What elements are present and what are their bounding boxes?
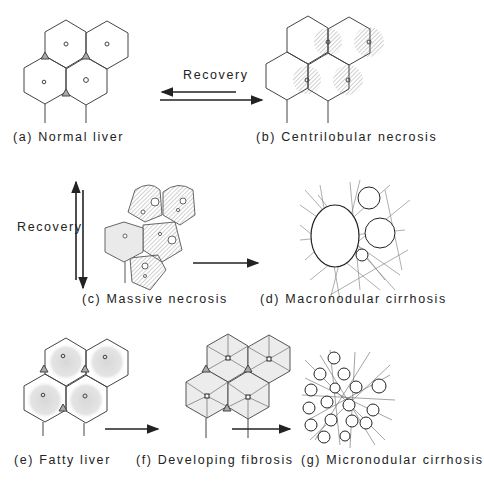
caption-d: (d) Macronodular cirrhosis <box>260 292 447 306</box>
caption-c: (c) Massive necrosis <box>82 292 228 306</box>
caption-b: (b) Centrilobular necrosis <box>256 130 437 144</box>
panel-c-massive-necrosis <box>105 185 195 290</box>
caption-e: (e) Fatty liver <box>14 453 111 467</box>
panel-d-macronodular-cirrhosis <box>300 180 410 300</box>
recovery-arrows-horizontal <box>160 92 262 100</box>
caption-a: (a) Normal liver <box>13 130 124 144</box>
recovery-arrows-vertical <box>76 182 83 288</box>
caption-f: (f) Developing fibrosis <box>136 453 294 467</box>
panel-b-centrilobular-necrosis <box>266 16 384 123</box>
recovery-label-top: Recovery <box>183 68 249 82</box>
recovery-label-side: Recovery <box>17 220 83 234</box>
panel-f-developing-fibrosis <box>186 334 290 438</box>
panel-a-normal-liver <box>24 20 128 123</box>
panel-e-fatty-liver <box>24 338 128 436</box>
panel-g-micronodular-cirrhosis <box>302 350 395 448</box>
caption-g: (g) Micronodular cirrhosis <box>301 453 484 467</box>
